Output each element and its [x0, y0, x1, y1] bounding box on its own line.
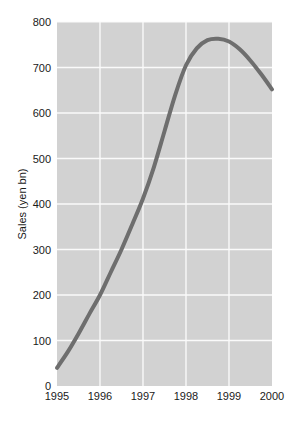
y-axis-tick-labels: 0100200300400500600700800	[33, 16, 51, 392]
x-tick-label-1999: 1999	[217, 390, 241, 402]
y-tick-label-100: 100	[33, 335, 51, 347]
y-tick-label-500: 500	[33, 153, 51, 165]
line-chart: 0100200300400500600700800 19951996199719…	[0, 0, 294, 424]
x-axis-tick-labels: 199519961997199819992000	[45, 390, 284, 402]
y-axis-title: Sales (yen bn)	[16, 169, 28, 240]
chart-canvas: 0100200300400500600700800 19951996199719…	[0, 0, 294, 424]
y-tick-label-700: 700	[33, 62, 51, 74]
x-tick-label-1996: 1996	[88, 390, 112, 402]
y-tick-label-300: 300	[33, 244, 51, 256]
y-tick-label-800: 800	[33, 16, 51, 28]
x-tick-label-2000: 2000	[260, 390, 284, 402]
y-tick-label-400: 400	[33, 198, 51, 210]
x-tick-label-1998: 1998	[174, 390, 198, 402]
x-tick-label-1997: 1997	[131, 390, 155, 402]
x-tick-label-1995: 1995	[45, 390, 69, 402]
y-tick-label-600: 600	[33, 107, 51, 119]
y-tick-label-200: 200	[33, 289, 51, 301]
